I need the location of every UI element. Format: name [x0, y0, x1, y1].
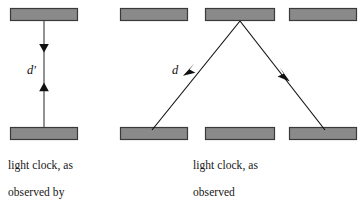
plate-astronaut-bottom	[11, 128, 78, 140]
caption-astronaut-line-2: observed by	[8, 186, 64, 198]
plate-earth-bottom-3	[290, 128, 357, 140]
light-ray-diagonal-up	[152, 21, 240, 130]
caption-astronaut-line-1: light clock, as	[8, 159, 73, 171]
light-ray-diagonal-down-arrowhead	[278, 68, 290, 82]
caption-earth-line-1: light clock, as	[193, 159, 258, 171]
caption-earth-line-2: observed	[193, 186, 235, 198]
plate-earth-bottom-2	[206, 128, 275, 140]
distance-label-d-prime: d′	[27, 63, 36, 78]
astronaut-panel	[11, 9, 78, 140]
light-ray-diagonal-up-arrowhead	[183, 64, 195, 76]
plate-astronaut-top	[11, 9, 78, 21]
plate-earth-top-2	[206, 9, 275, 21]
caption-earth-frame: light clock, as observed from earth	[193, 145, 313, 201]
distance-label-d: d	[172, 63, 178, 78]
light-clock-figure: d′ d light clock, as observed by astrona…	[0, 0, 361, 201]
plate-earth-top-1	[121, 9, 188, 21]
plate-earth-top-3	[290, 9, 357, 21]
plate-earth-bottom-1	[121, 128, 188, 140]
light-ray-up-arrowhead	[39, 83, 49, 92]
caption-astronaut-frame: light clock, as observed by astronaut	[8, 145, 126, 201]
earth-panel	[121, 9, 357, 140]
light-ray-down-arrowhead	[39, 44, 49, 53]
